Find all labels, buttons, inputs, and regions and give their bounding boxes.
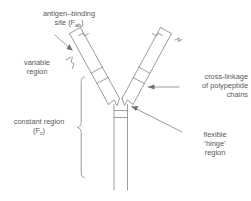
variable-region-line1: variable xyxy=(8,58,66,67)
antibody-structure-drawing xyxy=(0,0,251,201)
left-arm-cross-link xyxy=(92,67,109,84)
antigen-binding-line2: site (Fab) xyxy=(22,18,116,27)
flexible-hinge-line3: region xyxy=(186,148,244,157)
antibody-diagram: antigen–binding site (Fab) variable regi… xyxy=(0,0,251,201)
left-arm-outline xyxy=(70,28,120,105)
right-arm-outline xyxy=(122,28,172,105)
left-arm-tip xyxy=(70,28,81,34)
antigen-binding-line1: antigen–binding xyxy=(22,9,116,18)
cross-linkage-arrow xyxy=(148,85,179,90)
label-flexible-hinge-region: flexible ‘hinge’ region xyxy=(186,130,244,158)
cross-linkage-line3: chains xyxy=(182,90,248,99)
label-constant-region: constant region (Fc) xyxy=(2,117,76,135)
variable-region-bracket xyxy=(71,57,74,69)
label-antigen-binding-site: antigen–binding site (Fab) xyxy=(22,9,116,27)
antigen-binding-subscript: ab xyxy=(75,22,81,28)
cross-linkage-line1: cross-linkage xyxy=(182,72,248,81)
right-tip-brace xyxy=(175,38,182,42)
constant-region-prefix: (F xyxy=(33,126,40,135)
stem-hinge-cross-links xyxy=(114,111,128,118)
variable-region-pointer xyxy=(66,57,71,60)
constant-region-subscript: c xyxy=(40,130,43,136)
label-cross-linkage: cross-linkage of polypeptide chains xyxy=(182,72,248,100)
flexible-hinge-arrow xyxy=(132,106,183,132)
constant-region-line1: constant region xyxy=(2,117,76,126)
right-arm-cross-link xyxy=(133,67,150,84)
variable-region-line2: region xyxy=(8,67,66,76)
flexible-hinge-line1: flexible xyxy=(186,130,244,139)
constant-region-line2: (Fc) xyxy=(2,126,76,135)
label-variable-region: variable region xyxy=(8,58,66,76)
antigen-binding-arrow xyxy=(55,35,73,51)
antigen-binding-suffix: ) xyxy=(81,18,83,27)
cross-linkage-line2: of polypeptide xyxy=(182,81,248,90)
flexible-hinge-line2: ‘hinge’ xyxy=(186,139,244,148)
antigen-binding-bracket-left xyxy=(79,33,89,36)
right-arm-tip xyxy=(161,28,172,34)
antigen-binding-prefix: site (F xyxy=(55,18,76,27)
constant-region-brace xyxy=(78,77,85,178)
antigen-binding-bracket-right xyxy=(153,33,163,36)
